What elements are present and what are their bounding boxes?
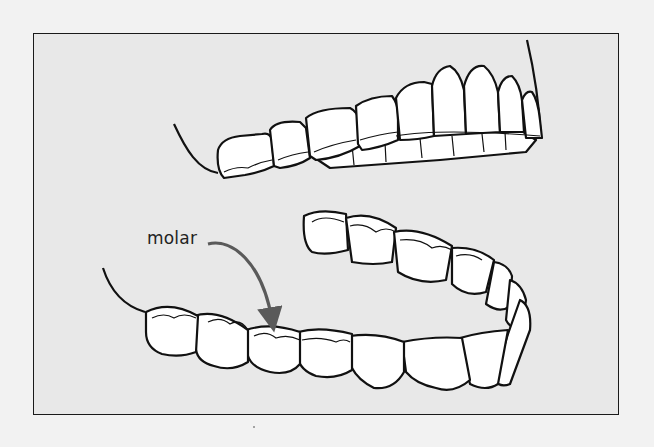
upper-arch xyxy=(174,40,542,178)
stray-dot xyxy=(253,426,255,428)
molar-label: molar xyxy=(147,228,197,248)
teeth-illustration xyxy=(0,0,654,447)
lower-wire-left xyxy=(103,268,145,312)
molar-arrow xyxy=(208,243,272,320)
upper-wire-left xyxy=(174,124,218,173)
